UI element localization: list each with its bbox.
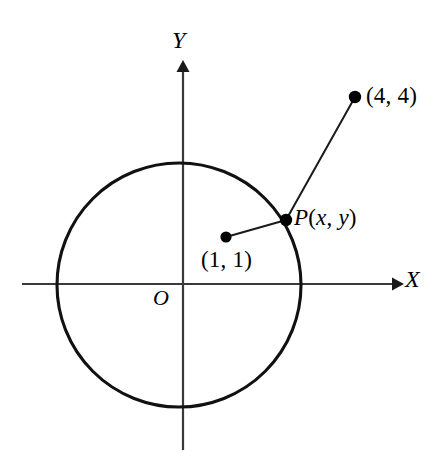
arrow-right-icon bbox=[392, 278, 404, 291]
figure-canvas bbox=[0, 0, 438, 474]
point-label-external: (4, 4) bbox=[366, 84, 417, 107]
point-label-p-var-x: x bbox=[316, 205, 326, 230]
y-axis-label: Y bbox=[172, 28, 185, 52]
point-label-p-var-y: y bbox=[338, 205, 348, 230]
point-label-p-prefix: P bbox=[294, 205, 308, 230]
point-label-p-open: ( bbox=[308, 205, 316, 230]
point-dot-p bbox=[280, 214, 292, 226]
point-dot-external bbox=[349, 91, 361, 103]
point-dot-center bbox=[220, 231, 231, 242]
point-label-p-comma: , bbox=[327, 205, 339, 230]
point-label-p-close: ) bbox=[349, 205, 357, 230]
point-label-p: P(x, y) bbox=[294, 206, 357, 229]
point-label-center: (1, 1) bbox=[201, 248, 252, 271]
radius-segment bbox=[226, 220, 286, 237]
arrow-up-icon bbox=[177, 60, 190, 72]
external-segment bbox=[286, 97, 355, 220]
x-axis-label: X bbox=[405, 267, 420, 291]
geometry-figure: Y X O (1, 1) (4, 4) P(x, y) bbox=[0, 0, 438, 474]
origin-label: O bbox=[153, 287, 169, 309]
